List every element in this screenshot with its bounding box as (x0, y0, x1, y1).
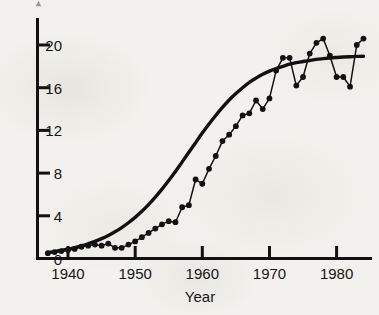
data-point-marker (139, 234, 145, 240)
x-tick-label-1980: 1980 (320, 266, 353, 281)
observed-data-line (48, 39, 364, 254)
data-point-marker (186, 202, 192, 208)
data-point-marker (361, 36, 367, 42)
data-point-marker (199, 181, 205, 187)
data-point-marker (132, 239, 138, 245)
data-point-marker (193, 177, 199, 183)
data-point-marker (146, 230, 152, 236)
y-tick-label-4: 4 (54, 208, 62, 223)
data-point-marker (179, 204, 185, 210)
data-point-marker (267, 95, 273, 101)
data-point-marker (314, 40, 320, 46)
y-tick-label-8: 8 (54, 166, 62, 181)
data-point-marker (320, 36, 326, 42)
data-point-marker (354, 42, 360, 48)
y-tick-label-20: 20 (45, 38, 62, 53)
data-point-marker (226, 132, 232, 138)
data-point-marker (253, 98, 259, 104)
x-tick-label-1960: 1960 (186, 266, 219, 281)
data-point-marker (240, 113, 246, 119)
x-axis-ticks (68, 246, 337, 258)
x-tick-label-1970: 1970 (253, 266, 286, 281)
axis-lines (36, 18, 372, 259)
data-point-marker (206, 166, 212, 172)
data-point-marker (173, 219, 179, 225)
y-tick-label-16: 16 (45, 80, 62, 95)
observed-data-series (45, 36, 366, 256)
y-tick-label-0: 0 (54, 251, 62, 266)
data-point-marker (334, 74, 340, 80)
data-point-marker (280, 55, 286, 61)
data-point-marker (246, 110, 252, 116)
x-tick-label-1940: 1940 (51, 266, 84, 281)
data-point-marker (340, 74, 346, 80)
fitted-logistic-curve (48, 56, 364, 252)
x-axis-title: Year (185, 289, 215, 304)
figure-container: 0 4 8 12 16 20 1940 1950 1960 1970 1980 … (0, 0, 379, 315)
data-point-marker (105, 241, 111, 247)
data-point-marker (287, 55, 293, 61)
observed-data-markers (45, 36, 366, 256)
data-point-marker (119, 245, 125, 251)
x-tick-label-1950: 1950 (119, 266, 152, 281)
data-point-marker (126, 242, 132, 248)
data-point-marker (293, 83, 299, 89)
data-point-marker (152, 226, 158, 232)
data-point-marker (99, 243, 105, 249)
data-point-marker (213, 153, 219, 159)
data-point-marker (112, 245, 118, 251)
data-point-marker (307, 51, 313, 57)
data-point-marker (159, 221, 165, 227)
data-point-marker (220, 138, 226, 144)
data-point-marker (166, 218, 172, 224)
data-point-marker (300, 74, 306, 80)
y-tick-label-12: 12 (45, 123, 62, 138)
data-point-marker (233, 123, 239, 129)
data-point-marker (347, 84, 353, 90)
data-point-marker (260, 106, 266, 112)
